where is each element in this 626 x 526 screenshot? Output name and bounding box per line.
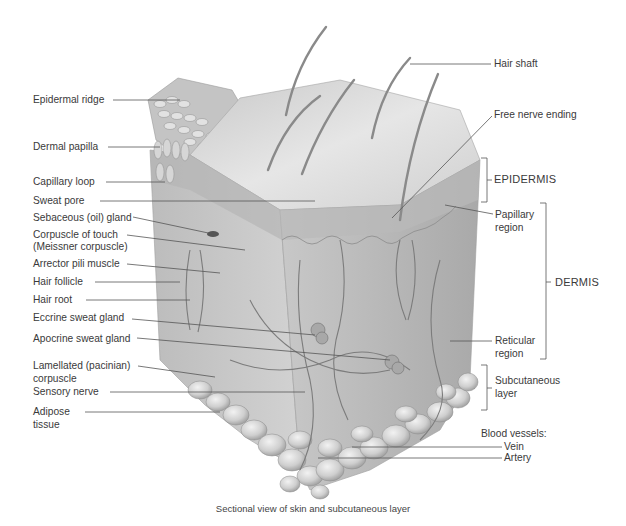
label-sweat-pore: Sweat pore	[33, 195, 85, 208]
label-artery: Artery	[504, 452, 531, 465]
label-blood-vessels: Blood vessels:	[481, 428, 547, 441]
label-free-nerve-ending: Free nerve ending	[494, 109, 577, 122]
label-arrector-pili: Arrector pili muscle	[33, 258, 120, 271]
label-eccrine-gland: Eccrine sweat gland	[33, 312, 124, 325]
label-adipose-tissue-2: tissue	[33, 419, 60, 432]
figure-caption: Sectional view of skin and subcutaneous …	[0, 503, 626, 514]
label-hair-shaft: Hair shaft	[494, 58, 538, 71]
label-meissner-corpuscle: (Meissner corpuscle)	[33, 241, 128, 254]
label-lamellated-corpuscle-2: corpuscle	[33, 373, 77, 386]
label-reticular-region-2: region	[495, 348, 523, 361]
label-dermal-papilla: Dermal papilla	[33, 141, 98, 154]
label-papillary-region-2: region	[495, 222, 523, 235]
label-sebaceous-gland: Sebaceous (oil) gland	[33, 212, 132, 225]
label-corpuscle-of-touch: Corpuscle of touch	[33, 229, 118, 242]
label-lamellated-corpuscle: Lamellated (pacinian)	[33, 360, 130, 373]
label-papillary-region: Papillary	[495, 209, 534, 222]
label-capillary-loop: Capillary loop	[33, 176, 95, 189]
label-sensory-nerve: Sensory nerve	[33, 386, 99, 399]
layer-brackets	[481, 158, 551, 410]
label-subcutaneous-layer-2: layer	[495, 388, 517, 401]
label-adipose-tissue: Adipose	[33, 406, 70, 419]
label-hair-root: Hair root	[33, 294, 72, 307]
label-dermis: DERMIS	[555, 276, 599, 289]
label-reticular-region: Reticular	[495, 335, 535, 348]
label-hair-follicle: Hair follicle	[33, 276, 83, 289]
label-epidermal-ridge: Epidermal ridge	[33, 94, 104, 107]
label-epidermis: EPIDERMIS	[494, 173, 556, 186]
label-apocrine-gland: Apocrine sweat gland	[33, 333, 130, 346]
label-subcutaneous-layer: Subcutaneous	[495, 375, 560, 388]
